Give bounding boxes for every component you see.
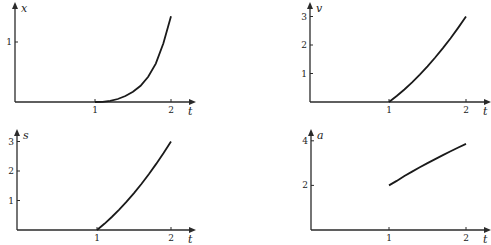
x-axis-label: t xyxy=(188,105,193,118)
y-axis-arrow-icon xyxy=(12,2,18,9)
y-tick-label: 2 xyxy=(301,40,307,50)
y-tick-label: 3 xyxy=(8,137,14,147)
plot-x: tx121 xyxy=(6,2,196,118)
y-axis-label: x xyxy=(21,2,28,15)
plot-a: ta1224 xyxy=(302,129,491,245)
series-line-a xyxy=(389,144,466,186)
x-axis-label: t xyxy=(483,105,488,118)
y-axis-label: v xyxy=(316,2,323,15)
x-tick-label: 1 xyxy=(386,105,392,115)
kinematics-figure: tx121tv12123ts12123ta1224 xyxy=(0,0,491,245)
x-tick-label: 2 xyxy=(463,233,469,243)
y-axis-arrow-icon xyxy=(307,2,313,9)
y-tick-label: 1 xyxy=(6,37,12,47)
x-tick-label: 2 xyxy=(463,105,469,115)
x-tick-label: 1 xyxy=(386,233,392,243)
y-tick-label: 2 xyxy=(8,166,14,176)
x-tick-label: 2 xyxy=(168,105,174,115)
plot-v: tv12123 xyxy=(301,2,491,118)
y-tick-label: 4 xyxy=(302,136,308,146)
x-tick-label: 1 xyxy=(94,233,100,243)
plot-s: ts12123 xyxy=(8,129,196,245)
series-line-v xyxy=(389,17,466,103)
series-line-s xyxy=(97,142,171,231)
y-axis-label: s xyxy=(23,129,29,142)
y-tick-label: 2 xyxy=(302,180,308,190)
y-tick-label: 3 xyxy=(301,12,307,22)
x-axis-label: t xyxy=(483,233,488,245)
y-tick-label: 1 xyxy=(301,69,307,79)
x-tick-label: 1 xyxy=(92,105,98,115)
series-line-x xyxy=(95,16,171,102)
x-tick-label: 2 xyxy=(168,233,174,243)
y-axis-arrow-icon xyxy=(14,129,20,136)
y-axis-arrow-icon xyxy=(308,129,314,136)
y-tick-label: 1 xyxy=(8,196,14,206)
x-axis-label: t xyxy=(188,233,193,245)
y-axis-label: a xyxy=(317,129,324,142)
